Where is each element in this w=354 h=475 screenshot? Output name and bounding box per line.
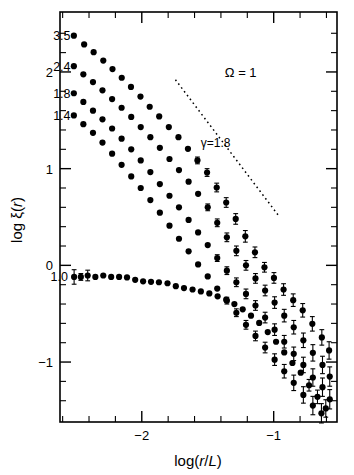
data-point — [156, 279, 162, 285]
data-point — [323, 405, 329, 411]
data-point — [108, 274, 114, 280]
series-label-1.4: 1.4 — [53, 109, 70, 123]
data-point — [118, 105, 124, 111]
series-3.5 — [71, 33, 332, 360]
data-point — [198, 288, 204, 294]
data-point — [118, 162, 124, 168]
data-point — [85, 272, 91, 278]
series-label-1.0: 1.0 — [51, 270, 68, 284]
y-tick-label: 2 — [46, 65, 53, 80]
data-point — [119, 75, 125, 81]
data-point — [138, 157, 144, 163]
data-point — [252, 302, 258, 308]
annotation-layer: Ω = 1γ=1.8 — [201, 65, 257, 150]
data-point — [100, 272, 106, 278]
data-point — [128, 146, 134, 152]
data-point — [215, 293, 221, 299]
data-point — [156, 113, 162, 119]
data-point — [319, 384, 325, 390]
data-point — [176, 204, 182, 210]
data-point — [281, 349, 287, 355]
data-point — [99, 87, 105, 93]
gamma-annotation: γ=1.8 — [201, 136, 231, 150]
data-point — [194, 157, 200, 163]
data-point — [109, 66, 115, 72]
data-point — [271, 275, 277, 281]
data-point — [157, 145, 163, 151]
data-point — [223, 297, 229, 303]
data-point — [195, 261, 201, 267]
data-point — [140, 278, 146, 284]
data-point — [186, 179, 192, 185]
data-point — [80, 99, 86, 105]
data-point — [252, 333, 258, 339]
data-point — [310, 402, 316, 408]
data-point — [309, 321, 315, 327]
data-point — [176, 236, 182, 242]
data-point — [181, 285, 187, 291]
series-2.4 — [71, 63, 333, 386]
data-point — [109, 151, 115, 157]
data-point — [318, 410, 324, 416]
data-point — [310, 350, 316, 356]
data-point — [138, 124, 144, 130]
y-axis-title: log ξ(r) — [8, 197, 25, 243]
data-point — [185, 146, 191, 152]
data-point — [281, 339, 287, 345]
data-point — [186, 217, 192, 223]
data-point — [99, 116, 105, 122]
data-point — [233, 248, 239, 254]
data-point — [195, 229, 201, 235]
data-point — [327, 373, 333, 379]
data-point — [252, 249, 258, 255]
x-tick-label: −2 — [134, 428, 149, 443]
data-point — [262, 287, 268, 293]
data-point — [233, 279, 239, 285]
data-point — [291, 351, 297, 357]
data-point — [116, 274, 122, 280]
data-point — [147, 104, 153, 110]
y-axis-major-ticks — [60, 72, 337, 362]
data-point — [90, 79, 96, 85]
x-tick-label: −1 — [266, 428, 281, 443]
data-point — [71, 63, 77, 69]
data-point — [206, 290, 212, 296]
data-point — [186, 248, 192, 254]
data-point — [233, 216, 239, 222]
data-point — [99, 139, 105, 145]
data-point — [109, 125, 115, 131]
data-point — [78, 274, 84, 280]
data-point — [157, 181, 163, 187]
data-point — [214, 184, 220, 190]
figure-container: −2−1 210−1 3.52.41.81.41.0 Ω = 1γ=1.8 lo… — [0, 0, 354, 475]
data-point — [166, 124, 172, 130]
data-point — [147, 169, 153, 175]
data-point — [281, 368, 287, 374]
data-point — [289, 360, 295, 366]
data-point — [248, 313, 254, 319]
data-point — [240, 306, 246, 312]
data-point — [272, 357, 278, 363]
data-point — [128, 114, 134, 120]
data-point — [300, 307, 306, 313]
data-point — [164, 280, 170, 286]
data-point — [233, 310, 239, 316]
data-point — [205, 204, 211, 210]
data-point — [204, 169, 210, 175]
data-point — [173, 283, 179, 289]
data-point — [71, 112, 77, 118]
data-point — [290, 297, 296, 303]
data-point — [137, 94, 143, 100]
data-point — [272, 299, 278, 305]
scatter-plot: −2−1 210−1 3.52.41.81.41.0 Ω = 1γ=1.8 lo… — [0, 0, 354, 475]
data-point — [300, 392, 306, 398]
data-point — [242, 233, 248, 239]
data-point — [306, 382, 312, 388]
data-point — [243, 322, 249, 328]
data-point — [300, 337, 306, 343]
data-point — [262, 344, 268, 350]
data-point — [261, 264, 267, 270]
data-point — [205, 242, 211, 248]
data-point — [175, 134, 181, 140]
data-point — [223, 199, 229, 205]
